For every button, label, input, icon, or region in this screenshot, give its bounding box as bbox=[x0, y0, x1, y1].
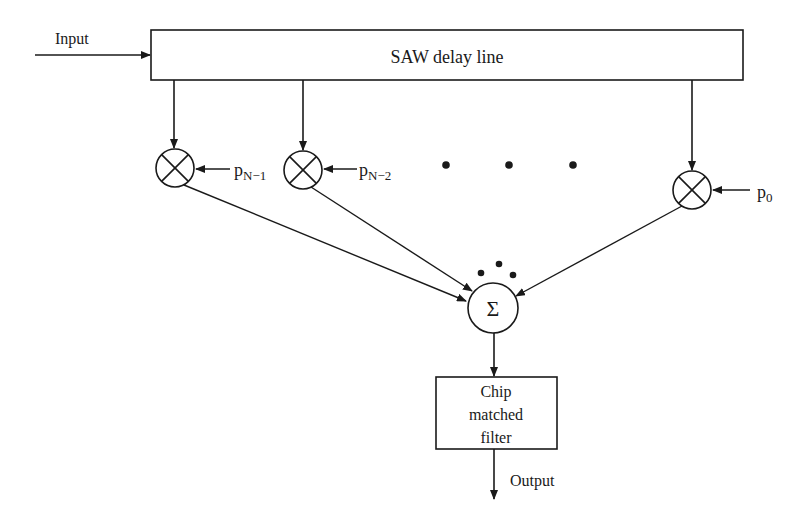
output-label: Output bbox=[510, 472, 555, 490]
input-label: Input bbox=[55, 30, 89, 48]
coefficient-label-3: p0 bbox=[757, 182, 773, 205]
filter-label-line-2: matched bbox=[469, 406, 523, 423]
chip-matched-filter-block: Chip matched filter bbox=[436, 377, 557, 449]
summer-node: Σ bbox=[468, 283, 518, 333]
sum-input-arrow-3 bbox=[516, 206, 682, 296]
multiplier-node-2 bbox=[284, 151, 322, 189]
summer-ellipsis bbox=[478, 261, 517, 279]
saw-delay-line-block: SAW delay line bbox=[151, 30, 743, 80]
filter-label-line-3: filter bbox=[480, 429, 512, 446]
multiplier-node-1 bbox=[156, 149, 194, 187]
tap-ellipsis bbox=[442, 161, 577, 169]
coefficient-label-2: pN−2 bbox=[359, 160, 391, 183]
multiplier-node-3 bbox=[673, 171, 711, 209]
summer-symbol: Σ bbox=[487, 296, 500, 321]
saw-correlator-diagram: Input SAW delay line pN−1 pN−2 p0 bbox=[0, 0, 802, 519]
coefficient-label-1: pN−1 bbox=[234, 160, 266, 183]
sum-input-arrow-1 bbox=[184, 185, 466, 301]
sum-input-arrow-2 bbox=[311, 187, 472, 291]
saw-delay-line-label: SAW delay line bbox=[390, 47, 503, 67]
filter-label-line-1: Chip bbox=[480, 383, 511, 401]
